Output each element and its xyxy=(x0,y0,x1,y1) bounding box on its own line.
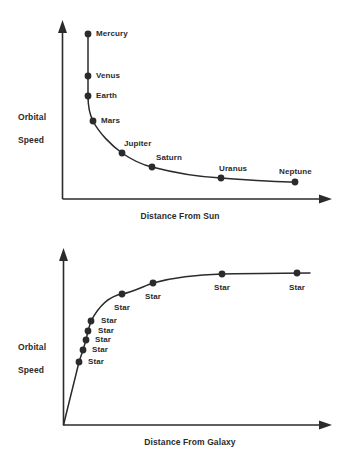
data-point xyxy=(85,328,92,335)
data-point xyxy=(83,337,90,344)
galaxy-rotation-chart: Orbital Speed Distance From Galaxy Star … xyxy=(0,230,353,461)
y-axis-label: Orbital Speed xyxy=(18,100,64,146)
y-axis-label-line1: Orbital xyxy=(18,112,46,122)
data-point xyxy=(218,175,225,182)
data-points xyxy=(85,31,299,186)
x-axis-label: Distance From Galaxy xyxy=(110,437,270,449)
point-label-star-8: Star xyxy=(214,283,230,292)
point-label-saturn: Saturn xyxy=(156,153,182,162)
point-label-star-9: Star xyxy=(289,283,305,292)
data-point xyxy=(76,359,83,366)
y-axis-label: Orbital Speed xyxy=(18,330,64,376)
y-axis-label-line1: Orbital xyxy=(18,342,46,352)
orbital-speed-curve xyxy=(88,34,295,182)
data-point xyxy=(294,270,301,277)
x-axis xyxy=(64,421,333,430)
point-label-uranus: Uranus xyxy=(219,164,247,173)
point-label-earth: Earth xyxy=(96,91,117,100)
y-axis-label-line2: Speed xyxy=(18,135,44,145)
point-label-jupiter: Jupiter xyxy=(124,139,151,148)
point-label-star-7: Star xyxy=(145,292,161,301)
x-axis xyxy=(63,195,333,204)
data-point xyxy=(80,347,87,354)
data-point xyxy=(149,164,156,171)
data-point xyxy=(85,73,92,80)
data-point xyxy=(88,318,95,325)
point-label-star-2: Star xyxy=(92,345,108,354)
point-label-star-6: Star xyxy=(114,303,130,312)
y-axis-label-line2: Speed xyxy=(18,365,44,375)
point-label-star-5: Star xyxy=(101,316,117,325)
data-point xyxy=(85,31,92,38)
point-label-star-1: Star xyxy=(88,357,104,366)
point-label-star-4: Star xyxy=(98,326,114,335)
point-label-mars: Mars xyxy=(101,116,120,125)
data-point xyxy=(119,291,126,298)
data-point xyxy=(150,280,157,287)
point-label-venus: Venus xyxy=(96,71,120,80)
point-label-mercury: Mercury xyxy=(96,29,128,38)
data-point xyxy=(219,271,226,278)
data-point xyxy=(292,179,299,186)
solar-system-chart: Orbital Speed Distance From Sun Mercury … xyxy=(0,0,353,230)
point-label-star-3: Star xyxy=(95,335,111,344)
data-point xyxy=(119,150,126,157)
point-label-neptune: Neptune xyxy=(279,167,312,176)
data-point xyxy=(85,93,92,100)
x-axis-label: Distance From Sun xyxy=(110,211,250,223)
data-point xyxy=(90,118,97,125)
